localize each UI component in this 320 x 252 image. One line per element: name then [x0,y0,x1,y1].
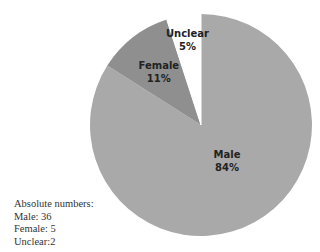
slice-name-male: Male [214,149,241,160]
slice-percent-unclear: 5% [179,41,196,52]
slice-name-unclear: Unclear [166,28,209,39]
absolute-numbers-male: Male: 36 [14,211,94,224]
absolute-numbers-female: Female: 5 [14,223,94,236]
slice-percent-female: 11% [147,73,171,84]
absolute-numbers-heading: Absolute numbers: [14,198,94,211]
absolute-numbers-note: Absolute numbers: Male: 36 Female: 5 Unc… [14,198,94,248]
slice-percent-male: 84% [215,162,239,173]
absolute-numbers-unclear: Unclear:2 [14,236,94,249]
slice-name-female: Female [139,60,180,71]
